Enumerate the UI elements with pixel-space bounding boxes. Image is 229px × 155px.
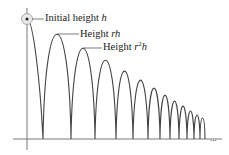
label-text: Height xyxy=(103,41,134,52)
label-text: Height xyxy=(80,28,111,39)
label-initial-height: Initial height h xyxy=(45,13,107,24)
label-height-rh: Height rh xyxy=(80,29,120,40)
label-exp: 2 xyxy=(138,40,142,48)
bouncing-ball-diagram xyxy=(0,0,229,155)
label-var-tail: h xyxy=(142,41,147,52)
label-height-r2h: Height r2h xyxy=(103,42,147,53)
ball-center-dot xyxy=(26,18,29,21)
label-var: h xyxy=(102,12,107,23)
label-text: Initial height xyxy=(45,12,102,23)
ellipsis: ... xyxy=(210,134,217,143)
label-var: rh xyxy=(111,28,120,39)
